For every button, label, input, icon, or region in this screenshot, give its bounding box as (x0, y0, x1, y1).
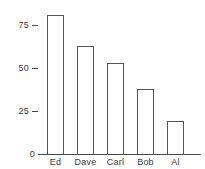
y-axis-tick-mark (32, 68, 38, 69)
bar-al (167, 121, 184, 154)
y-axis-tick-label: 75 (19, 21, 29, 30)
x-axis-line (38, 154, 201, 155)
x-axis-label-dave: Dave (70, 157, 101, 168)
y-axis-tick-1: 25 (0, 106, 38, 117)
y-axis-tick-mark (32, 25, 38, 26)
bar-dave (77, 46, 94, 154)
x-axis-label-bob: Bob (130, 157, 161, 168)
y-axis-tick-label: 0 (30, 150, 35, 159)
bar-chart: 75 50 25 0 Ed Dave Carl Bob Al (0, 0, 205, 169)
y-axis-tick-mark (32, 111, 38, 112)
x-axis-label-al: Al (160, 157, 191, 168)
bar-ed (47, 15, 64, 154)
y-axis-tick-label: 50 (19, 64, 29, 73)
y-axis-tick-2: 50 (0, 63, 38, 74)
x-axis-label-carl: Carl (100, 157, 131, 168)
y-axis-tick-3: 75 (0, 20, 38, 31)
x-axis-label-ed: Ed (40, 157, 71, 168)
bar-bob (137, 89, 154, 154)
bar-carl (107, 63, 124, 154)
y-axis-tick-label: 25 (19, 107, 29, 116)
y-axis-tick-0: 0 (0, 149, 38, 160)
